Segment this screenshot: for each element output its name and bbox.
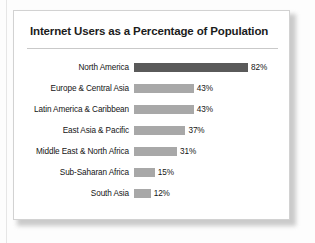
bar <box>134 189 151 198</box>
bar-value-label: 37% <box>185 126 204 135</box>
bar-category-label: Middle East & North Africa <box>14 147 134 156</box>
bar <box>134 84 194 93</box>
bar-row: Latin America & Caribbean43% <box>14 99 291 120</box>
bar <box>134 168 155 177</box>
bar-row: Europe & Central Asia43% <box>14 78 291 99</box>
bar-category-label: North America <box>14 63 134 72</box>
bar-track: 43% <box>134 78 291 99</box>
bar-row: Sub-Saharan Africa15% <box>14 162 291 183</box>
bar-track: 82% <box>134 57 291 78</box>
bar-value-label: 82% <box>248 63 267 72</box>
bar-value-label: 12% <box>151 189 170 198</box>
bar-row: North America82% <box>14 57 291 78</box>
bar-chart-plot-area: North America82%Europe & Central Asia43%… <box>14 57 291 204</box>
bar-track: 43% <box>134 99 291 120</box>
bar <box>134 105 194 114</box>
bar-category-label: East Asia & Pacific <box>14 126 134 135</box>
bar-category-label: Sub-Saharan Africa <box>14 168 134 177</box>
bar <box>134 147 177 156</box>
page-seam <box>6 0 7 243</box>
bar-row: Middle East & North Africa31% <box>14 141 291 162</box>
bar-value-label: 15% <box>155 168 174 177</box>
bar-track: 15% <box>134 162 291 183</box>
bar-row: South Asia12% <box>14 183 291 204</box>
bar-row: East Asia & Pacific37% <box>14 120 291 141</box>
bar-value-label: 31% <box>177 147 196 156</box>
bar-value-label: 43% <box>194 84 213 93</box>
chart-card: Internet Users as a Percentage of Popula… <box>13 10 290 220</box>
bar-value-label: 43% <box>194 105 213 114</box>
bar-track: 31% <box>134 141 291 162</box>
bar <box>134 63 248 72</box>
bar-category-label: Europe & Central Asia <box>14 84 134 93</box>
chart-title: Internet Users as a Percentage of Popula… <box>30 25 268 37</box>
bar-track: 37% <box>134 120 291 141</box>
bar-category-label: Latin America & Caribbean <box>14 105 134 114</box>
title-divider <box>27 48 278 49</box>
bar-track: 12% <box>134 183 291 204</box>
bar <box>134 126 185 135</box>
bar-category-label: South Asia <box>14 189 134 198</box>
